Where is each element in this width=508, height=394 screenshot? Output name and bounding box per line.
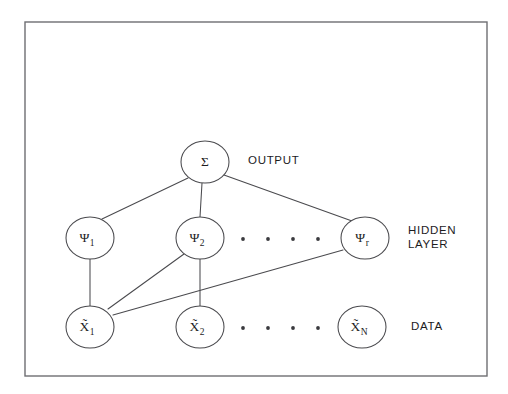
data-ellipsis-dot-2 xyxy=(266,326,270,330)
node-xN[interactable]: X̃N xyxy=(338,306,386,348)
data-ellipsis-dot-1 xyxy=(241,326,245,330)
node-subscript-xN: N xyxy=(361,327,368,337)
data-ellipsis-dot-3 xyxy=(291,326,295,330)
hidden-ellipsis-dot-1 xyxy=(241,237,245,241)
hidden-layer-label-line2: LAYER xyxy=(408,238,448,250)
hidden-ellipsis-dot-4 xyxy=(316,237,320,241)
node-psir[interactable]: Ψr xyxy=(341,217,389,259)
node-psi2[interactable]: Ψ2 xyxy=(176,217,224,259)
node-label-sigma: Σ xyxy=(201,154,209,169)
node-subscript-x1: 1 xyxy=(90,327,95,337)
hidden-layer-label-line1: HIDDEN xyxy=(408,224,456,236)
output-layer-label: OUTPUT xyxy=(248,154,299,166)
hidden-ellipsis-dot-3 xyxy=(291,237,295,241)
data-ellipsis-dot-4 xyxy=(316,326,320,330)
node-sigma[interactable]: Σ xyxy=(181,141,229,183)
node-subscript-x2: 2 xyxy=(200,327,205,337)
node-x1[interactable]: X̃1 xyxy=(66,306,114,348)
hidden-ellipsis-dot-2 xyxy=(266,237,270,241)
neural-network-diagram: ΣΨ1Ψ2ΨrX̃1X̃2X̃N OUTPUT HIDDEN LAYER DAT… xyxy=(0,0,508,394)
node-x2[interactable]: X̃2 xyxy=(176,306,224,348)
data-layer-label: DATA xyxy=(411,320,443,332)
node-subscript-psi1: 1 xyxy=(90,238,95,248)
figure-root: ΣΨ1Ψ2ΨrX̃1X̃2X̃N OUTPUT HIDDEN LAYER DAT… xyxy=(0,0,508,394)
node-psi1[interactable]: Ψ1 xyxy=(66,217,114,259)
node-subscript-psi2: 2 xyxy=(200,238,205,248)
